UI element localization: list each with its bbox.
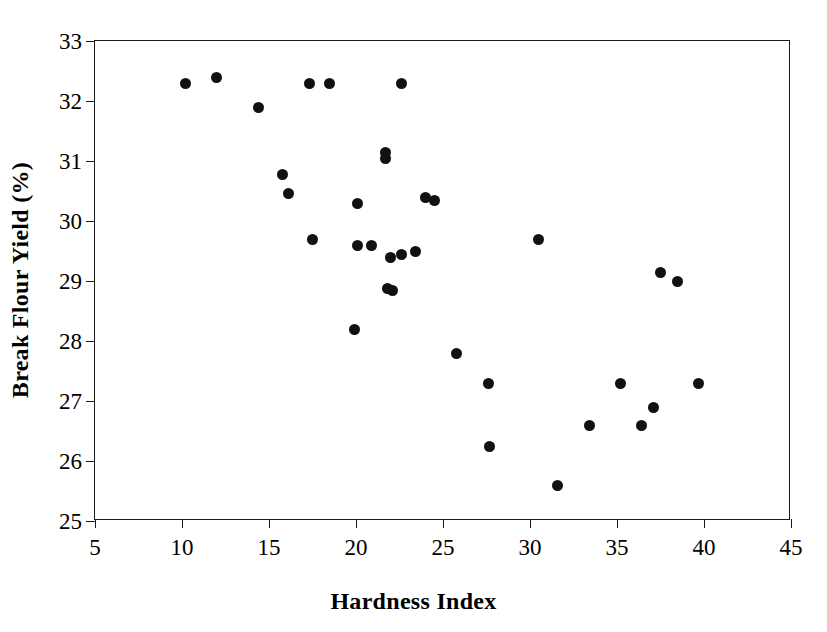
y-tick-mark <box>86 161 95 162</box>
y-tick-mark <box>86 341 95 342</box>
y-tick-mark <box>86 221 95 222</box>
x-tick-label: 40 <box>693 536 716 559</box>
y-tick-label: 29 <box>59 270 82 293</box>
x-tick-mark <box>704 519 705 528</box>
y-tick-label: 28 <box>59 330 82 353</box>
y-tick-label: 32 <box>59 90 82 113</box>
x-tick-mark <box>182 519 183 528</box>
data-point <box>307 234 318 245</box>
data-point <box>396 78 407 89</box>
data-point <box>672 276 683 287</box>
data-point <box>349 324 360 335</box>
data-point <box>410 246 421 257</box>
y-tick-label: 25 <box>59 510 82 533</box>
data-point <box>552 480 563 491</box>
data-point <box>385 252 396 263</box>
data-point <box>615 378 626 389</box>
data-points-layer <box>95 41 789 519</box>
y-tick-mark <box>86 461 95 462</box>
x-tick-label: 15 <box>258 536 281 559</box>
data-point <box>655 267 666 278</box>
x-tick-label: 45 <box>780 536 803 559</box>
y-tick-mark <box>86 401 95 402</box>
x-tick-mark <box>95 519 96 528</box>
data-point <box>283 188 294 199</box>
data-point <box>451 348 462 359</box>
y-tick-mark <box>86 521 95 522</box>
y-tick-label: 27 <box>59 390 82 413</box>
y-tick-label: 30 <box>59 210 82 233</box>
x-tick-mark <box>530 519 531 528</box>
x-tick-mark <box>269 519 270 528</box>
y-tick-mark <box>86 281 95 282</box>
data-point <box>396 249 407 260</box>
x-tick-label: 10 <box>171 536 194 559</box>
data-point <box>693 378 704 389</box>
data-point <box>380 153 391 164</box>
x-tick-label: 20 <box>345 536 368 559</box>
data-point <box>429 195 440 206</box>
x-tick-mark <box>617 519 618 528</box>
data-point <box>648 402 659 413</box>
data-point <box>387 285 398 296</box>
y-tick-label: 26 <box>59 450 82 473</box>
data-point <box>366 240 377 251</box>
x-tick-mark <box>356 519 357 528</box>
x-tick-mark <box>791 519 792 528</box>
data-point <box>584 420 595 431</box>
data-point <box>304 78 315 89</box>
data-point <box>636 420 647 431</box>
x-tick-label: 30 <box>519 536 542 559</box>
y-tick-mark <box>86 101 95 102</box>
data-point <box>483 378 494 389</box>
y-tick-label: 33 <box>59 30 82 53</box>
data-point <box>277 169 288 180</box>
x-tick-label: 5 <box>89 536 101 559</box>
data-point <box>324 78 335 89</box>
data-point <box>352 240 363 251</box>
x-tick-mark <box>443 519 444 528</box>
y-axis-title: Break Flour Yield (%) <box>0 40 40 520</box>
data-point <box>533 234 544 245</box>
x-tick-label: 25 <box>432 536 455 559</box>
plot-area: 252627282930313233 51015202530354045 <box>94 40 790 520</box>
data-point <box>352 198 363 209</box>
data-point <box>484 441 495 452</box>
y-tick-label: 31 <box>59 150 82 173</box>
data-point <box>253 102 264 113</box>
data-point <box>180 78 191 89</box>
y-tick-mark <box>86 41 95 42</box>
x-axis-title: Hardness Index <box>0 588 827 615</box>
x-tick-label: 35 <box>606 536 629 559</box>
data-point <box>211 72 222 83</box>
scatter-plot-figure: 252627282930313233 51015202530354045 Bre… <box>0 0 827 632</box>
